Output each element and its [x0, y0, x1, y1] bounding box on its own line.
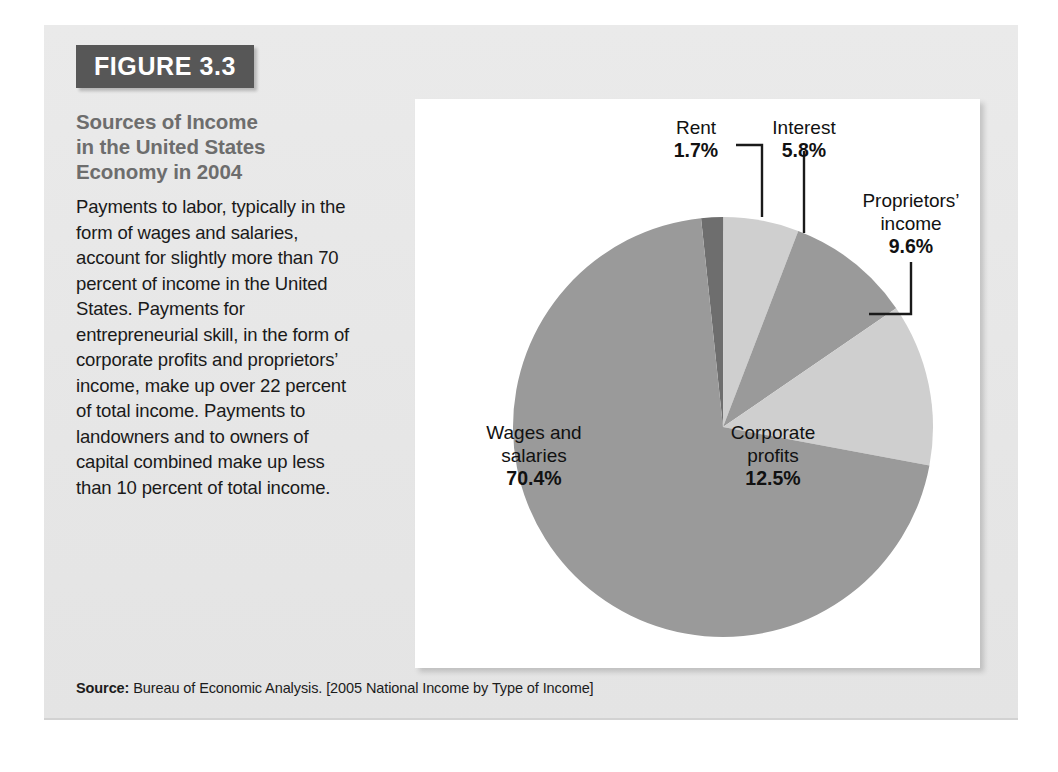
pie-label-wages-value: 70.4%: [506, 467, 561, 489]
figure-number-badge: FIGURE 3.3: [76, 45, 254, 88]
figure-title-line-1: Sources of Income: [76, 110, 258, 133]
pie-chart: [415, 99, 980, 668]
figure-description: Payments to labor, typically in the form…: [76, 194, 354, 500]
pie-label-wages-name-2: salaries: [501, 445, 566, 466]
pie-label-interest: Interest 5.8%: [758, 116, 850, 162]
pie-label-proprietors-value: 9.6%: [889, 235, 933, 257]
pie-label-corporate-name-2: profits: [747, 445, 799, 466]
pie-label-interest-name: Interest: [772, 117, 835, 138]
figure-text-column: Sources of Income in the United States E…: [76, 109, 354, 500]
figure-title-line-3: Economy in 2004: [76, 160, 242, 183]
pie-label-corporate: Corporate profits 12.5%: [709, 421, 837, 490]
figure-title-line-2: in the United States: [76, 135, 265, 158]
pie-label-proprietors: Proprietors’ income 9.6%: [845, 189, 977, 258]
pie-label-wages-name-1: Wages and: [486, 422, 581, 443]
figure-title: Sources of Income in the United States E…: [76, 109, 354, 184]
pie-label-rent-value: 1.7%: [674, 139, 718, 161]
chart-panel: Rent 1.7% Interest 5.8% Proprietors’ inc…: [415, 99, 980, 668]
pie-label-wages: Wages and salaries 70.4%: [459, 421, 609, 490]
figure-number-label: FIGURE 3.3: [94, 52, 236, 81]
source-text: Bureau of Economic Analysis. [2005 Natio…: [129, 680, 593, 696]
figure-card: FIGURE 3.3 Sources of Income in the Unit…: [44, 25, 1018, 720]
pie-label-proprietors-name-2: income: [880, 213, 941, 234]
card-bottom-rule: [44, 718, 1018, 720]
pie-label-corporate-value: 12.5%: [745, 467, 800, 489]
source-label: Source:: [76, 680, 129, 696]
pie-label-rent: Rent 1.7%: [658, 116, 734, 162]
source-line: Source: Bureau of Economic Analysis. [20…: [76, 680, 976, 696]
pie-label-interest-value: 5.8%: [782, 139, 826, 161]
pie-label-corporate-name-1: Corporate: [731, 422, 816, 443]
pie-label-rent-name: Rent: [676, 117, 716, 138]
pie-label-proprietors-name-1: Proprietors’: [862, 190, 959, 211]
